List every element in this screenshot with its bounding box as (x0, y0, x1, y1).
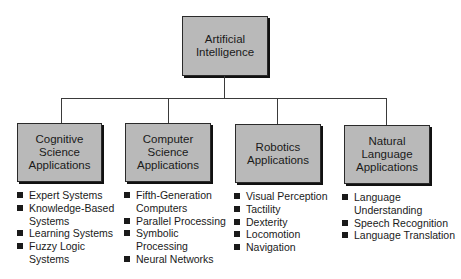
node-natural-language-applications: Natural Language Applications (344, 125, 430, 184)
list-item: Expert Systems (17, 189, 117, 202)
node-cognitive-science-applications: Cognitive Science Applications (17, 123, 102, 182)
connector-child-1 (61, 98, 62, 123)
list-item: Speech Recognition (342, 217, 461, 230)
list-item: Navigation (234, 241, 344, 254)
list-item: Neural Networks (124, 253, 234, 266)
list-cognitive-science: Expert Systems Knowledge-Based Systems L… (17, 189, 117, 266)
list-item: Tactility (234, 203, 344, 216)
list-computer-science: Fifth-Generation Computers Parallel Proc… (124, 189, 234, 266)
list-item: Fuzzy Logic Systems (17, 240, 117, 266)
connector-root-vertical (224, 76, 225, 99)
root-node-artificial-intelligence: Artificial Intelligence (182, 16, 268, 76)
node-computer-science-applications: Computer Science Applications (125, 123, 211, 182)
node-label: Natural Language Applications (356, 135, 418, 174)
list-robotics: Visual Perception Tactility Dexterity Lo… (234, 190, 344, 254)
list-item: Learning Systems (17, 227, 117, 240)
node-label: Computer Science Applications (137, 133, 199, 172)
list-natural-language: Language Understanding Speech Recognitio… (342, 191, 461, 242)
list-item: Symbolic Processing (124, 227, 234, 253)
connector-child-2 (168, 98, 169, 123)
list-item: Parallel Processing (124, 215, 234, 228)
node-label: Robotics Applications (247, 141, 309, 167)
list-item: Fifth-Generation Computers (124, 189, 234, 215)
node-label: Cognitive Science Applications (28, 133, 90, 172)
connector-child-3 (277, 98, 278, 124)
list-item: Dexterity (234, 216, 344, 229)
connector-horizontal-bus (61, 98, 387, 99)
node-robotics-applications: Robotics Applications (235, 124, 321, 183)
list-item: Visual Perception (234, 190, 344, 203)
list-item: Language Understanding (342, 191, 461, 217)
list-item: Knowledge-Based Systems (17, 202, 117, 228)
list-item: Language Translation (342, 229, 461, 242)
connector-child-4 (386, 98, 387, 125)
list-item: Locomotion (234, 228, 344, 241)
root-node-label: Artificial Intelligence (196, 33, 254, 59)
